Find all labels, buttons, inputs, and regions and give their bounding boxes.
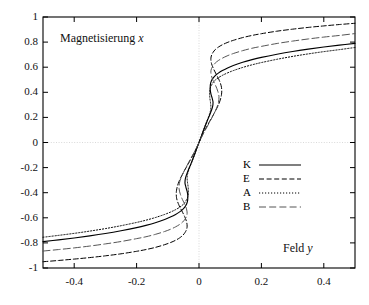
y-tick-label: -0.8 [2,237,38,248]
x-tick-label: 0.4 [299,276,349,287]
legend-item-b: B [243,200,309,212]
y-axis-title: Magnetisierung x [60,32,144,44]
y-tick-label: -1 [2,262,38,273]
y-tick-label: 0.4 [2,86,38,97]
legend-line-sample [257,201,303,212]
chart-figure: 10.80.60.40.20-0.2-0.4-0.6-0.8-1 -0.4-0.… [0,0,369,305]
x-axis-title-text: Feld [283,241,304,255]
legend-line-sample [257,159,303,170]
x-tick-label: -0.2 [112,276,162,287]
legend-item-k: K [243,158,309,170]
y-tick-label: 0.2 [2,111,38,122]
x-axis-variable: y [307,241,312,255]
legend-line-sample [257,187,303,198]
y-tick-label: 1 [2,11,38,22]
x-axis-title: Feld y [283,242,313,254]
y-axis-title-text: Magnetisierung [60,31,135,45]
y-tick-label: 0.6 [2,61,38,72]
y-tick-label: -0.2 [2,162,38,173]
legend-label: B [243,201,257,212]
y-axis-variable: x [138,31,143,45]
x-tick-label: 0 [174,276,224,287]
y-tick-label: 0.8 [2,36,38,47]
legend-item-a: A [243,186,309,198]
legend-line-sample [257,173,303,184]
legend-label: E [243,173,257,184]
legend-item-e: E [243,172,309,184]
legend-label: K [243,159,257,170]
legend-label: A [243,187,257,198]
legend: KEAB [243,158,309,214]
x-tick-label: -0.4 [49,276,99,287]
y-tick-label: -0.4 [2,187,38,198]
plot-canvas [0,0,369,305]
y-tick-label: -0.6 [2,212,38,223]
y-tick-label: 0 [2,137,38,148]
x-tick-label: 0.2 [236,276,286,287]
